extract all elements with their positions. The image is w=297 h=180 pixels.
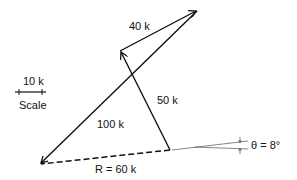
vector-100k — [41, 11, 197, 163]
scale-caption: Scale — [19, 100, 47, 111]
label-resultant: R = 60 k — [95, 164, 136, 175]
label-100k: 100 k — [97, 119, 124, 130]
label-40k: 40 k — [129, 21, 150, 32]
scale-value-label: 10 k — [23, 76, 44, 87]
label-angle: θ = 8° — [251, 140, 280, 151]
label-50k: 50 k — [157, 95, 178, 106]
resultant-vector — [41, 150, 170, 164]
